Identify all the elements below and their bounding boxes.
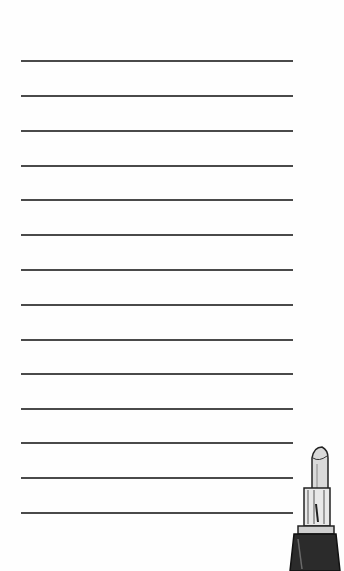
- ruled-line: [21, 60, 293, 62]
- ruled-line: [21, 512, 293, 514]
- lined-notepad-page: [0, 0, 344, 571]
- ruled-line: [21, 373, 293, 375]
- ruled-line: [21, 339, 293, 341]
- ruled-line: [21, 165, 293, 167]
- ruled-line: [21, 408, 293, 410]
- ruled-line: [21, 199, 293, 201]
- ruled-line: [21, 234, 293, 236]
- ruled-line: [21, 95, 293, 97]
- ruled-line: [21, 304, 293, 306]
- ruled-line: [21, 477, 293, 479]
- ruled-line: [21, 442, 293, 444]
- lipstick-icon: [284, 444, 344, 571]
- ruled-line: [21, 269, 293, 271]
- ruled-line: [21, 130, 293, 132]
